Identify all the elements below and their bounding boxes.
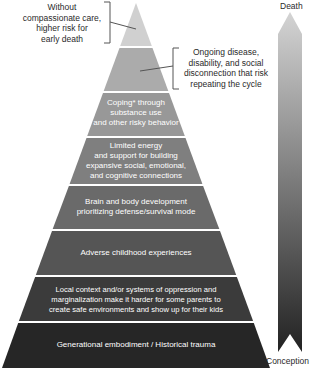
arrow-label-conception: Conception: [266, 356, 309, 366]
callout-ongoing-disease: Ongoing disease, disability, and social …: [178, 47, 274, 89]
tier-4-label: Limited energy and support for building …: [72, 141, 200, 181]
tier-5-label: Brain and body development prioritizing …: [56, 197, 216, 217]
arrow-label-death: Death: [280, 1, 303, 11]
tier-6-label: Adverse childhood experiences: [40, 248, 232, 258]
callout-bracket-1: [104, 2, 110, 43]
tier-7-label: Local context and/or systems of oppressi…: [22, 285, 250, 315]
pyramid-tier-2: [104, 48, 169, 91]
callout-early-death: Without compassionate care, higher risk …: [20, 2, 104, 44]
timeline-arrow: [278, 12, 302, 352]
pyramid-tier-1: [120, 3, 152, 46]
tier-3-label: Coping* through substance use and other …: [90, 98, 182, 128]
tier-8-label: Generational embodiment / Historical tra…: [10, 340, 262, 350]
